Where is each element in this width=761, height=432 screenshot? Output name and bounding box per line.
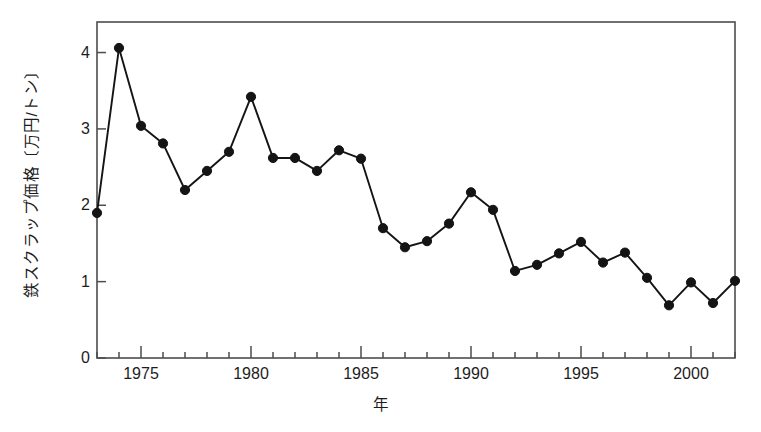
x-tick-label-2000: 2000 bbox=[656, 366, 726, 382]
x-tick-label-1975: 1975 bbox=[106, 366, 176, 382]
x-axis-tick-labels: 197519801985199019952000 bbox=[0, 0, 761, 432]
x-tick-label-1990: 1990 bbox=[436, 366, 506, 382]
x-tick-label-1995: 1995 bbox=[546, 366, 616, 382]
chart-figure: 鉄スクラップ価格〔万円/トン〕 01234 197519801985199019… bbox=[0, 0, 761, 432]
x-tick-label-1985: 1985 bbox=[326, 366, 396, 382]
x-axis-title-text: 年 bbox=[373, 396, 389, 413]
x-tick-label-1980: 1980 bbox=[216, 366, 286, 382]
x-axis-title: 年 bbox=[0, 392, 761, 414]
